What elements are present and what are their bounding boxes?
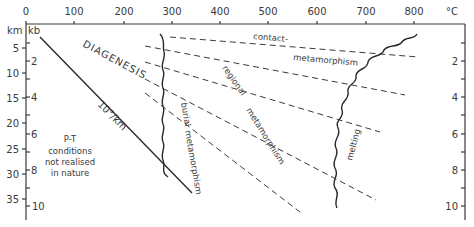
pressure-tick-label: 6 bbox=[452, 129, 458, 140]
pressure-tick-label: 6 bbox=[31, 129, 37, 140]
pressure-tick-label: 10 bbox=[445, 201, 458, 212]
temp-tick-label: 600 bbox=[307, 6, 326, 17]
pressure-tick-label: 2 bbox=[31, 56, 37, 67]
diagenesis-label: DIAGENESIS bbox=[81, 38, 149, 81]
temp-tick-label: 0 bbox=[23, 6, 29, 17]
depth-tick-label: 25 bbox=[6, 144, 19, 155]
temp-tick-label: 100 bbox=[64, 6, 83, 17]
depth-tick-label: 35 bbox=[6, 194, 19, 205]
depth-tick-label: 10 bbox=[6, 68, 19, 79]
depth-tick-label: 5 bbox=[13, 43, 19, 54]
gradient-label: 10°/km bbox=[96, 99, 130, 133]
depth-pressure-axis-left: km kb 5 10 15 20 25 30 35 2 4 6 8 10 bbox=[6, 24, 44, 220]
burial-metamorphism-label: metamorphism bbox=[183, 130, 204, 196]
regional-metamorphism-label: metamorphism bbox=[244, 106, 287, 166]
temp-tick-label: 800 bbox=[404, 6, 423, 17]
depth-tick-label: 20 bbox=[6, 118, 19, 129]
regional-label: regional bbox=[220, 63, 248, 97]
temp-tick-label: 500 bbox=[258, 6, 277, 17]
temp-tick-label: 300 bbox=[162, 6, 181, 17]
pressure-tick-label: 4 bbox=[31, 92, 37, 103]
km-unit-label: km bbox=[7, 25, 23, 36]
melting-label: melting bbox=[344, 128, 362, 162]
contact-metamorphism-label: metamorphism bbox=[293, 52, 359, 68]
depth-tick-label: 15 bbox=[6, 93, 19, 104]
pt-conditions-label-line4: in nature bbox=[51, 168, 89, 178]
temp-tick-label: 400 bbox=[210, 6, 229, 17]
pt-conditions-label-line2: conditions bbox=[48, 146, 92, 156]
kb-unit-label: kb bbox=[28, 25, 40, 36]
pressure-tick-label: 8 bbox=[31, 165, 37, 176]
temperature-axis: 0 100 200 300 400 500 600 700 800 °C bbox=[23, 6, 465, 24]
pressure-axis-right: 2 4 6 8 10 bbox=[445, 24, 465, 220]
pressure-tick-label: 4 bbox=[452, 92, 458, 103]
burial-label: burial bbox=[179, 102, 193, 128]
temp-tick-label: 700 bbox=[356, 6, 375, 17]
pt-diagram: 0 100 200 300 400 500 600 700 800 °C km … bbox=[0, 0, 474, 227]
temp-tick-label: 200 bbox=[114, 6, 133, 17]
pressure-tick-label: 10 bbox=[32, 201, 45, 212]
pressure-tick-label: 2 bbox=[452, 56, 458, 67]
pt-conditions-label-line3: not realised bbox=[45, 157, 95, 167]
contact-label: contact- bbox=[253, 31, 289, 44]
pt-conditions-label-line1: P-T bbox=[64, 134, 77, 144]
temp-unit-label: °C bbox=[446, 6, 458, 17]
depth-tick-label: 30 bbox=[6, 169, 19, 180]
pressure-tick-label: 8 bbox=[452, 165, 458, 176]
